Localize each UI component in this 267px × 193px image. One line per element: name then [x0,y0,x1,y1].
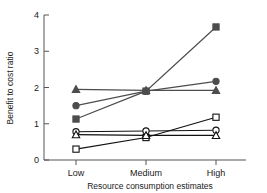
x-tick-label-high: High [207,168,226,178]
data-point-open-square [73,146,79,152]
x-axis-ticks: LowMediumHigh [68,160,226,178]
y-axis-ticks: 01234 [34,10,49,165]
y-axis-title: Benefit to cost ratio [5,51,15,124]
y-tick-label: 1 [34,119,39,129]
series-line [76,27,216,119]
y-tick-label: 0 [34,155,39,165]
chart-canvas: 01234 LowMediumHigh Benefit to cost rati… [0,0,267,193]
benefit-cost-ratio-line-chart: 01234 LowMediumHigh Benefit to cost rati… [0,0,267,193]
data-series-layer [72,24,219,152]
series-filled-triangle [72,86,219,94]
data-point-open-square [213,114,219,120]
x-tick-label-low: Low [68,168,85,178]
x-tick-label-medium: Medium [130,168,162,178]
y-tick-label: 2 [34,83,39,93]
y-tick-label: 4 [34,10,39,20]
series-filled-square [73,24,219,122]
data-point-filled-square [213,24,219,30]
x-axis-title: Resource consumption estimates [87,181,213,191]
data-point-filled-circle [73,103,79,109]
data-point-filled-square [73,116,79,122]
y-tick-label: 3 [34,46,39,56]
data-point-filled-circle [213,78,219,84]
